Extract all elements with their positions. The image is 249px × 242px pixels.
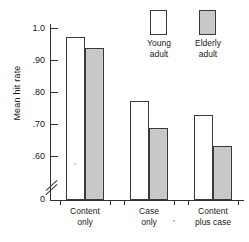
y-tick-label-3: .80 [5, 88, 45, 97]
legend-label-line1: Elderly [181, 38, 235, 49]
legend-swatch-young-adult [150, 10, 167, 35]
bar-young-case-only [130, 101, 149, 200]
legend-label-line2: adult [132, 49, 186, 60]
x-tick-mark-2 [110, 200, 111, 205]
bar-annotation-star: * [74, 162, 76, 168]
legend-label-young-adult: Young adult [132, 38, 186, 60]
y-tick-mark-2 [51, 60, 58, 61]
x-tick-mark-6 [238, 200, 239, 205]
x-group-label-line1: Content [175, 206, 249, 217]
y-tick-label-6: 0 [5, 195, 45, 204]
bar-elderly-case-only [149, 128, 168, 200]
y-tick-label-5: .60 [5, 152, 45, 161]
x-axis-line [50, 200, 244, 201]
x-tick-mark-1 [60, 200, 61, 205]
x-tick-mark-4 [174, 200, 175, 205]
x-tick-mark-5 [188, 200, 189, 205]
bar-elderly-content-only [85, 48, 104, 200]
legend-label-line2: adult [181, 49, 235, 60]
y-tick-label-2: .90 [5, 56, 45, 65]
bar-chart-figure: Mean hit rate 1.0 .90 .80 .70 .60 0 * Co… [0, 0, 249, 242]
y-tick-label-4: .70 [5, 120, 45, 129]
y-axis-line [50, 24, 51, 201]
axis-break-icon [44, 179, 58, 193]
x-tick-mark-3 [124, 200, 125, 205]
bar-young-content-only [66, 37, 85, 200]
x-group-label-content-plus-case: Content plus case [175, 206, 249, 228]
bar-elderly-content-plus-case [213, 146, 232, 200]
y-tick-mark-1 [51, 28, 58, 29]
bar-young-content-plus-case [194, 115, 213, 200]
y-tick-mark-3 [51, 92, 58, 93]
y-tick-mark-6 [51, 200, 58, 201]
y-tick-label-1: 1.0 [5, 24, 45, 33]
footnote-star: * [173, 219, 175, 225]
legend-label-line1: Young [132, 38, 186, 49]
y-tick-mark-5 [51, 156, 58, 157]
y-tick-mark-4 [51, 124, 58, 125]
legend-swatch-elderly-adult [199, 10, 216, 35]
legend-label-elderly-adult: Elderly adult [181, 38, 235, 60]
x-group-label-line2: plus case [175, 217, 249, 228]
